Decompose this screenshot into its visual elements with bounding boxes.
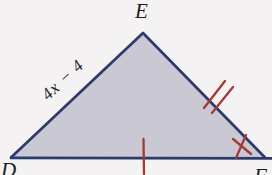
single-tick-mark-DF	[144, 139, 145, 174]
vertex-label-E: E	[135, 1, 148, 22]
side-DF	[10, 158, 272, 159]
vertex-label-F: F	[254, 166, 267, 175]
vertex-label-D: D	[1, 160, 16, 175]
geometry-figure: E D F 4x − 4	[0, 0, 272, 175]
